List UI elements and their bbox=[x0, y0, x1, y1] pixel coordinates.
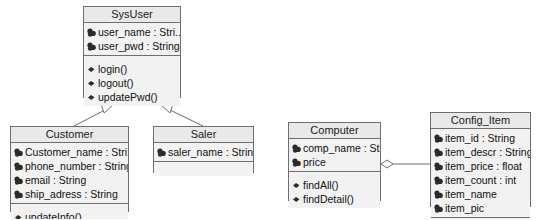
attribute-icon bbox=[13, 189, 24, 200]
attribute-row[interactable]: item_descr : String bbox=[431, 145, 530, 159]
attribute-label: item_descr : String bbox=[445, 146, 530, 158]
attribute-icon bbox=[433, 161, 444, 172]
attribute-icon bbox=[433, 133, 444, 144]
operation-row[interactable]: login() bbox=[84, 62, 180, 76]
hollow-diamond-marker bbox=[381, 160, 393, 168]
attribute-icon bbox=[13, 175, 24, 186]
class-name-saler: Saler bbox=[154, 127, 253, 143]
uml-class-computer[interactable]: Computercomp_name : StringpricefindAll()… bbox=[288, 122, 381, 201]
operations-compartment-customer: updateInfo() bbox=[11, 204, 128, 219]
attribute-row[interactable]: saler_name : String bbox=[154, 145, 253, 159]
uml-class-diagram-canvas: SysUseruser_name : Stri...user_pwd : Str… bbox=[0, 0, 537, 219]
operation-icon bbox=[291, 180, 302, 191]
operation-icon bbox=[291, 194, 302, 205]
attribute-row[interactable]: phone_number : String bbox=[11, 159, 128, 173]
attribute-label: user_pwd : String bbox=[98, 40, 180, 52]
attributes-compartment-customer: Customer_name : Stri...phone_number : St… bbox=[11, 143, 128, 204]
attribute-icon bbox=[433, 203, 444, 214]
operation-icon bbox=[86, 92, 97, 103]
operations-compartment-computer: findAll()findDetail() bbox=[289, 172, 380, 208]
aggregation-computer-to-config-item bbox=[381, 160, 430, 168]
class-name-customer: Customer bbox=[11, 127, 128, 143]
attribute-row[interactable]: comp_name : String bbox=[289, 141, 380, 155]
attribute-icon bbox=[291, 143, 302, 154]
operation-row[interactable]: findAll() bbox=[289, 178, 380, 192]
attribute-row[interactable]: ship_adress : String bbox=[11, 187, 128, 201]
attribute-label: item_id : String bbox=[445, 132, 515, 144]
attribute-label: item_name bbox=[445, 188, 497, 200]
operation-label: updatePwd() bbox=[98, 91, 158, 103]
operation-row[interactable]: updatePwd() bbox=[84, 90, 180, 104]
attribute-row[interactable]: Customer_name : Stri... bbox=[11, 145, 128, 159]
attributes-compartment-saler: saler_name : String bbox=[154, 143, 253, 162]
operation-label: findDetail() bbox=[303, 193, 354, 205]
attribute-label: item_price : float bbox=[445, 160, 522, 172]
operation-row[interactable]: logout() bbox=[84, 76, 180, 90]
operation-icon bbox=[86, 64, 97, 75]
operation-label: findAll() bbox=[303, 179, 339, 191]
operation-label: logout() bbox=[98, 77, 134, 89]
operations-compartment-sysuser: login()logout()updatePwd() bbox=[84, 56, 180, 106]
attribute-label: saler_name : String bbox=[168, 146, 253, 158]
uml-class-customer[interactable]: CustomerCustomer_name : Stri...phone_num… bbox=[10, 126, 129, 212]
attribute-icon bbox=[433, 147, 444, 158]
attribute-label: ship_adress : String bbox=[25, 188, 118, 200]
attribute-icon bbox=[156, 147, 167, 158]
attribute-row[interactable]: item_name bbox=[431, 187, 530, 201]
attribute-label: item_count : int bbox=[445, 174, 516, 186]
attribute-label: price bbox=[303, 156, 326, 168]
operation-icon bbox=[86, 78, 97, 89]
attribute-row[interactable]: user_pwd : String bbox=[84, 39, 180, 53]
attribute-icon bbox=[13, 147, 24, 158]
attribute-row[interactable]: item_price : float bbox=[431, 159, 530, 173]
uml-class-saler[interactable]: Salersaler_name : String bbox=[153, 126, 254, 173]
operation-label: updateInfo() bbox=[25, 211, 82, 219]
attribute-row[interactable]: item_id : String bbox=[431, 131, 530, 145]
class-name-sysuser: SysUser bbox=[84, 7, 180, 23]
attributes-compartment-sysuser: user_name : Stri...user_pwd : String bbox=[84, 23, 180, 56]
attribute-icon bbox=[13, 161, 24, 172]
class-name-config_item: Config_Item bbox=[431, 113, 530, 129]
attribute-row[interactable]: item_pic bbox=[431, 201, 530, 215]
attribute-icon bbox=[433, 189, 444, 200]
attribute-row[interactable]: email : String bbox=[11, 173, 128, 187]
attribute-row[interactable]: price bbox=[289, 155, 380, 169]
operations-compartment-config_item bbox=[431, 218, 530, 219]
attribute-label: item_pic bbox=[445, 202, 484, 214]
attribute-label: comp_name : String bbox=[303, 142, 380, 154]
class-name-computer: Computer bbox=[289, 123, 380, 139]
operation-label: login() bbox=[98, 63, 127, 75]
attribute-icon bbox=[86, 27, 97, 38]
attribute-row[interactable]: item_count : int bbox=[431, 173, 530, 187]
operations-compartment-saler bbox=[154, 162, 253, 176]
attribute-label: phone_number : String bbox=[25, 160, 128, 172]
uml-class-sysuser[interactable]: SysUseruser_name : Stri...user_pwd : Str… bbox=[83, 6, 181, 98]
attribute-label: Customer_name : Stri... bbox=[25, 146, 128, 158]
attributes-compartment-config_item: item_id : Stringitem_descr : Stringitem_… bbox=[431, 129, 530, 218]
generalization-line bbox=[170, 110, 203, 126]
attribute-row[interactable]: user_name : Stri... bbox=[84, 25, 180, 39]
attribute-label: user_name : Stri... bbox=[98, 26, 180, 38]
operation-icon bbox=[13, 212, 24, 220]
operation-row[interactable]: findDetail() bbox=[289, 192, 380, 206]
attribute-icon bbox=[291, 157, 302, 168]
attribute-icon bbox=[86, 41, 97, 52]
attributes-compartment-computer: comp_name : Stringprice bbox=[289, 139, 380, 172]
uml-class-config_item[interactable]: Config_Itemitem_id : Stringitem_descr : … bbox=[430, 112, 531, 207]
operation-row[interactable]: updateInfo() bbox=[11, 210, 128, 219]
attribute-label: email : String bbox=[25, 174, 86, 186]
generalization-line bbox=[74, 110, 105, 126]
attribute-icon bbox=[433, 175, 444, 186]
